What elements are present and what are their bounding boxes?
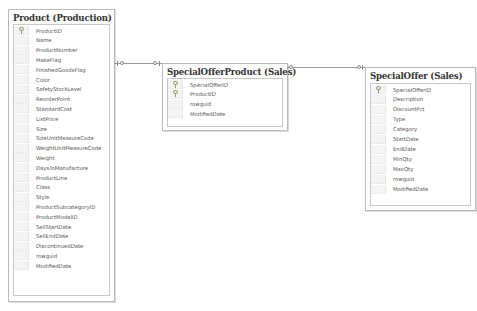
column-name: ProductNumber: [29, 47, 77, 53]
row-selector[interactable]: [371, 115, 386, 124]
column-row[interactable]: SellEndDate: [14, 232, 109, 241]
column-row[interactable]: StandardCost: [14, 104, 109, 113]
many-end-marker-icon: [153, 61, 157, 65]
column-row[interactable]: StartDate: [371, 135, 470, 144]
column-row[interactable]: ProductLine: [14, 173, 109, 182]
row-selector[interactable]: [371, 125, 386, 134]
row-selector[interactable]: [14, 134, 29, 143]
row-selector[interactable]: [168, 80, 183, 89]
column-row[interactable]: Name: [14, 36, 109, 45]
row-selector[interactable]: [371, 105, 386, 114]
row-selector[interactable]: [14, 173, 29, 182]
row-selector[interactable]: [14, 202, 29, 211]
row-selector[interactable]: [168, 90, 183, 99]
table-special-offer[interactable]: SpecialOffer (Sales) SpecialOfferIDDescr…: [365, 67, 476, 211]
row-selector[interactable]: [14, 232, 29, 241]
row-selector[interactable]: [14, 65, 29, 74]
row-selector[interactable]: [14, 251, 29, 260]
column-row[interactable]: SafetyStockLevel: [14, 85, 109, 94]
column-row[interactable]: WeightUnitMeasureCode: [14, 144, 109, 153]
column-name: ProductSubcategoryID: [29, 204, 95, 210]
column-row[interactable]: Category: [371, 125, 470, 134]
column-row[interactable]: DiscontinuedDate: [14, 242, 109, 251]
column-row[interactable]: MakeFlag: [14, 55, 109, 64]
column-row[interactable]: SizeUnitMeasureCode: [14, 134, 109, 143]
row-selector[interactable]: [168, 100, 183, 109]
column-row[interactable]: Description: [371, 95, 470, 104]
row-selector[interactable]: [14, 144, 29, 153]
column-row[interactable]: ProductID: [168, 90, 282, 99]
column-row[interactable]: ModifiedDate: [371, 185, 470, 194]
column-row[interactable]: rowguid: [168, 100, 282, 109]
row-selector[interactable]: [14, 212, 29, 221]
row-selector[interactable]: [14, 95, 29, 104]
row-selector[interactable]: [14, 104, 29, 113]
column-row[interactable]: ModifiedDate: [168, 109, 282, 118]
column-name: Description: [386, 96, 423, 102]
row-selector[interactable]: [14, 36, 29, 45]
table-product[interactable]: Product (Production) ProductIDNameProduc…: [8, 9, 115, 302]
column-row[interactable]: ProductModelID: [14, 212, 109, 221]
row-selector[interactable]: [371, 95, 386, 104]
column-row[interactable]: ReorderPoint: [14, 95, 109, 104]
column-row[interactable]: Class: [14, 183, 109, 192]
column-row[interactable]: SpecialOfferID: [168, 80, 282, 89]
column-row[interactable]: DiscountPct: [371, 105, 470, 114]
primary-key-icon: [376, 86, 381, 93]
column-row[interactable]: Type: [371, 115, 470, 124]
row-selector[interactable]: [14, 153, 29, 162]
column-name: Type: [386, 116, 405, 122]
column-row[interactable]: FinishedGoodsFlag: [14, 65, 109, 74]
column-name: Weight: [29, 155, 54, 161]
row-selector[interactable]: [371, 145, 386, 154]
column-name: SellEndDate: [29, 233, 68, 239]
row-selector[interactable]: [371, 185, 386, 194]
column-row[interactable]: SellStartDate: [14, 222, 109, 231]
column-row[interactable]: Size: [14, 124, 109, 133]
row-selector[interactable]: [371, 135, 386, 144]
column-row[interactable]: Style: [14, 193, 109, 202]
column-row[interactable]: ProductID: [14, 26, 109, 35]
row-selector[interactable]: [168, 109, 183, 118]
row-selector[interactable]: [14, 55, 29, 64]
column-row[interactable]: DaysToManufacture: [14, 163, 109, 172]
column-name: ModifiedDate: [29, 263, 71, 269]
column-row[interactable]: rowguid: [371, 175, 470, 184]
row-selector[interactable]: [14, 261, 29, 270]
column-row[interactable]: rowguid: [14, 251, 109, 260]
row-selector[interactable]: [14, 163, 29, 172]
column-row[interactable]: ModifiedDate: [14, 261, 109, 270]
column-name: MaxQty: [386, 166, 413, 172]
column-row[interactable]: Weight: [14, 153, 109, 162]
row-selector[interactable]: [14, 26, 29, 35]
column-row[interactable]: MinQty: [371, 155, 470, 164]
column-row[interactable]: ProductSubcategoryID: [14, 202, 109, 211]
one-end-marker-icon: [362, 65, 363, 70]
row-selector[interactable]: [14, 242, 29, 251]
column-row[interactable]: Color: [14, 75, 109, 84]
row-selector[interactable]: [371, 165, 386, 174]
column-name: DaysToManufacture: [29, 165, 88, 171]
table-special-offer-product[interactable]: SpecialOfferProduct (Sales) SpecialOffer…: [162, 63, 288, 131]
column-row[interactable]: ProductNumber: [14, 46, 109, 55]
column-row[interactable]: MaxQty: [371, 165, 470, 174]
row-selector[interactable]: [14, 46, 29, 55]
row-selector[interactable]: [371, 85, 386, 94]
column-row[interactable]: SpecialOfferID: [371, 85, 470, 94]
row-selector[interactable]: [14, 124, 29, 133]
row-selector[interactable]: [371, 175, 386, 184]
column-row[interactable]: ListPrice: [14, 114, 109, 123]
column-name: FinishedGoodsFlag: [29, 67, 86, 73]
row-selector[interactable]: [14, 85, 29, 94]
row-selector[interactable]: [14, 183, 29, 192]
row-selector[interactable]: [14, 222, 29, 231]
row-selector[interactable]: [14, 114, 29, 123]
row-selector[interactable]: [14, 193, 29, 202]
relationship-line[interactable]: [287, 67, 365, 68]
column-row[interactable]: EndDate: [371, 145, 470, 154]
row-selector[interactable]: [371, 155, 386, 164]
primary-key-icon: [173, 90, 178, 97]
row-selector[interactable]: [14, 75, 29, 84]
many-end-marker-icon: [289, 65, 293, 69]
column-name: StandardCost: [29, 106, 72, 112]
